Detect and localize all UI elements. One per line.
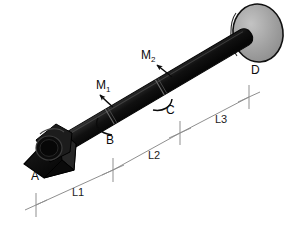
label-point-b: B <box>106 133 114 147</box>
label-m2-subscript: 2 <box>151 55 156 64</box>
label-point-c: C <box>166 103 175 117</box>
dim-cross-c <box>169 121 191 145</box>
m1-arc-upper-arrowhead <box>100 95 113 107</box>
label-torque-m1: M 1 <box>96 78 111 94</box>
label-dim-l2: L2 <box>148 149 160 161</box>
shaft-torque-diagram: A B C D M 1 M 2 L1 L2 L3 <box>0 0 291 231</box>
figure-canvas: A B C D M 1 M 2 L1 L2 L3 <box>0 0 291 231</box>
label-point-a: A <box>31 169 39 183</box>
shaft-body <box>49 26 256 158</box>
dim-cross-d <box>238 85 260 109</box>
label-m1-subscript: 1 <box>106 85 111 94</box>
dim-cross-b <box>102 158 124 182</box>
label-point-d: D <box>251 63 260 77</box>
label-torque-m2: M 2 <box>141 48 156 64</box>
label-m1-base: M <box>96 78 106 92</box>
label-m2-base: M <box>141 48 151 62</box>
label-dim-l3: L3 <box>215 113 227 125</box>
hub-bore-inner <box>40 140 58 157</box>
dim-line-l2 <box>113 133 180 170</box>
dim-cross-a <box>25 193 47 217</box>
shaft-cylinder <box>49 26 256 158</box>
label-dim-l1: L1 <box>72 186 84 198</box>
